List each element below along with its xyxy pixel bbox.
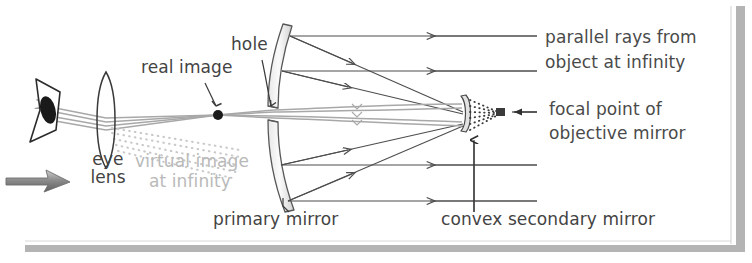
label-real-image: real image [141, 58, 233, 76]
label-focal-point-line2: objective mirror [549, 124, 686, 142]
focal-point-dotted-rays [470, 100, 496, 130]
label-parallel-rays-line2: object at infinity [545, 53, 686, 71]
label-hole: hole [231, 35, 268, 53]
label-convex-secondary-mirror: convex secondary mirror [441, 210, 655, 228]
label-parallel-rays-line1: parallel rays from [545, 28, 697, 46]
callout-leaders [205, 36, 537, 212]
parallel-incoming-rays [281, 36, 537, 201]
telescope-ray-diagram-figure: hole real image eye lens virtual image a… [0, 0, 752, 263]
label-focal-point-line1: focal point of [549, 100, 662, 118]
leader-real-image [205, 83, 216, 106]
light-direction-arrow [6, 170, 70, 192]
label-eye: eye [86, 150, 130, 168]
real-image-point [213, 110, 223, 120]
focal-point-marker [496, 108, 505, 116]
eye [30, 79, 60, 142]
label-lens: lens [83, 168, 133, 186]
gray-ray-bundle [40, 104, 462, 130]
label-virtual-image-line2: at infinity [149, 172, 231, 190]
label-primary-mirror: primary mirror [213, 210, 338, 228]
label-virtual-image-line1: virtual image [135, 152, 249, 170]
